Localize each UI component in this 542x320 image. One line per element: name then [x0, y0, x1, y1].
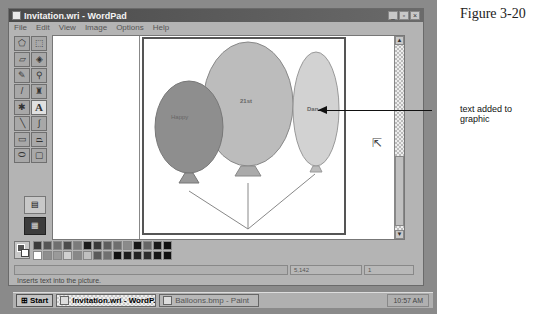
rounded-rectangle-icon[interactable]: ▢ — [31, 148, 47, 163]
start-label: Start — [30, 296, 48, 305]
menu-view[interactable]: View — [59, 23, 76, 32]
balloon-text-21st: 21st — [240, 98, 252, 104]
color-swatch[interactable] — [133, 251, 142, 260]
wordpad-window: Invitation.wri - WordPad _ ▫ × File Edit… — [8, 8, 424, 286]
color-swatch[interactable] — [63, 251, 72, 260]
menu-edit[interactable]: Edit — [36, 23, 50, 32]
taskbar-item-label: Balloons.bmp - Paint — [175, 296, 249, 305]
color-swatch[interactable] — [103, 241, 112, 250]
airbrush-icon[interactable]: ✱ — [14, 100, 30, 115]
menu-options[interactable]: Options — [116, 23, 144, 32]
maximize-button[interactable]: ▫ — [399, 11, 409, 20]
color-swatch[interactable] — [93, 251, 102, 260]
callout-line — [318, 110, 432, 111]
color-swatch[interactable] — [43, 241, 52, 250]
menu-bar: File Edit View Image Options Help — [9, 22, 423, 33]
color-swatch[interactable] — [163, 241, 172, 250]
menu-image[interactable]: Image — [85, 23, 107, 32]
fill-icon[interactable]: ◈ — [31, 52, 47, 67]
minimize-button[interactable]: _ — [388, 11, 398, 20]
taskbar: ⊞ Start Invitation.wri - WordP... Balloo… — [13, 292, 433, 308]
status-main-pane — [14, 265, 288, 275]
color-swatch[interactable] — [153, 251, 162, 260]
taskbar-item-paint[interactable]: Balloons.bmp - Paint — [159, 294, 259, 307]
color-swatch[interactable] — [73, 251, 82, 260]
balloon-text-happy: Happy — [171, 114, 188, 120]
pick-color-icon[interactable]: ✎ — [14, 68, 30, 83]
taskbar-item-wordpad[interactable]: Invitation.wri - WordP... — [56, 294, 156, 307]
taskbar-clock: 10:57 AM — [387, 294, 429, 307]
color-swatch[interactable] — [53, 241, 62, 250]
callout-text: text added to graphic — [460, 104, 542, 124]
color-swatch[interactable] — [113, 241, 122, 250]
embedded-paint-picture[interactable]: Happy 21st Dan — [142, 37, 346, 235]
color-swatch[interactable] — [83, 251, 92, 260]
rectangle-icon[interactable]: ▭ — [14, 132, 30, 147]
status-bar: 5,142 1 — [14, 265, 414, 275]
pencil-icon[interactable]: / — [14, 84, 30, 99]
wordpad-icon — [12, 11, 21, 20]
taskbar-item-label: Invitation.wri - WordP... — [72, 296, 156, 305]
windows-logo-icon: ⊞ — [21, 296, 28, 305]
color-swatch[interactable] — [83, 241, 92, 250]
menu-file[interactable]: File — [14, 23, 27, 32]
cursor-coordinates: 5,142 — [290, 265, 362, 275]
color-swatch[interactable] — [73, 241, 82, 250]
color-swatch[interactable] — [123, 241, 132, 250]
document-area[interactable]: Happy 21st Dan ⇱ ▲ ▼ — [52, 35, 405, 240]
balloons-graphic: Happy 21st Dan — [144, 39, 344, 233]
color-swatch[interactable] — [33, 251, 42, 260]
color-swatch[interactable] — [103, 251, 112, 260]
color-swatch[interactable] — [43, 251, 52, 260]
color-swatch[interactable] — [33, 241, 42, 250]
title-bar[interactable]: Invitation.wri - WordPad _ ▫ × — [9, 9, 423, 22]
color-swatch[interactable] — [133, 241, 142, 250]
opaque-background-option[interactable]: ▤ — [24, 196, 46, 214]
paint-toolbox: ⬠ ⬚ ▱ ◈ ✎ ⚲ / ♜ ✱ A ╲ ∫ ▭ ⏢ ⬭ ▢ ▤ ▦ — [14, 36, 50, 176]
background-color — [21, 249, 29, 257]
selection-size: 1 — [364, 265, 414, 275]
color-swatch[interactable] — [163, 251, 172, 260]
transparent-background-option[interactable]: ▦ — [24, 217, 46, 235]
color-swatches — [33, 241, 172, 260]
color-swatch[interactable] — [143, 251, 152, 260]
scroll-thumb[interactable] — [395, 156, 404, 226]
brush-icon[interactable]: ♜ — [31, 84, 47, 99]
color-swatch[interactable] — [53, 251, 62, 260]
vertical-scrollbar[interactable]: ▲ ▼ — [394, 36, 404, 239]
color-palette — [14, 241, 172, 260]
close-button[interactable]: × — [410, 11, 420, 20]
eraser-icon[interactable]: ▱ — [14, 52, 30, 67]
status-hint: Inserts text into the picture. — [17, 277, 101, 284]
color-swatch[interactable] — [123, 251, 132, 260]
menu-help[interactable]: Help — [153, 23, 169, 32]
magnifier-icon[interactable]: ⚲ — [31, 68, 47, 83]
color-swatch[interactable] — [93, 241, 102, 250]
color-swatch[interactable] — [63, 241, 72, 250]
current-colors-indicator — [14, 241, 30, 259]
color-swatch[interactable] — [143, 241, 152, 250]
wordpad-task-icon — [60, 296, 69, 305]
color-swatch[interactable] — [113, 251, 122, 260]
polygon-icon[interactable]: ⏢ — [31, 132, 47, 147]
free-form-select-icon[interactable]: ⬠ — [14, 36, 30, 51]
line-icon[interactable]: ╲ — [14, 116, 30, 131]
start-button[interactable]: ⊞ Start — [16, 294, 53, 307]
scroll-down-button[interactable]: ▼ — [395, 230, 404, 239]
scroll-up-button[interactable]: ▲ — [395, 36, 404, 45]
paint-task-icon — [163, 296, 172, 305]
screenshot: Invitation.wri - WordPad _ ▫ × File Edit… — [0, 0, 437, 314]
window-title: Invitation.wri - WordPad — [24, 11, 127, 21]
select-icon[interactable]: ⬚ — [31, 36, 47, 51]
color-swatch[interactable] — [153, 241, 162, 250]
figure-label: Figure 3-20 — [460, 6, 526, 22]
mouse-cursor-icon: ⇱ — [372, 136, 382, 150]
curve-icon[interactable]: ∫ — [31, 116, 47, 131]
ellipse-icon[interactable]: ⬭ — [14, 148, 30, 163]
balloon-text-dan: Dan — [307, 106, 319, 112]
text-tool-icon[interactable]: A — [31, 100, 47, 115]
document-margin — [53, 36, 140, 239]
